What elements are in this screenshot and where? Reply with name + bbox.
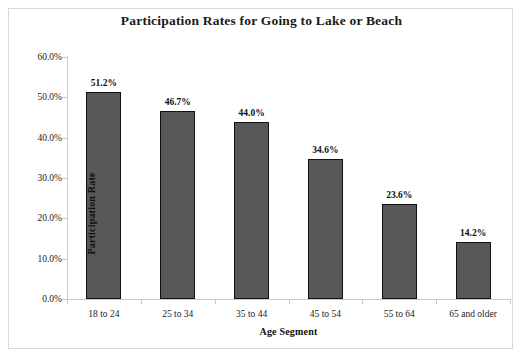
y-axis-tick-label: 30.0%	[8, 173, 62, 183]
plot-area: 51.2%46.7%44.0%34.6%23.6%14.2% Participa…	[67, 56, 510, 299]
x-axis-tick	[510, 299, 511, 304]
bar-value-label: 23.6%	[369, 190, 429, 201]
x-axis-category-label: 35 to 44	[212, 308, 292, 320]
x-axis-category-label: 18 to 24	[64, 308, 144, 320]
bar-value-label: 34.6%	[295, 145, 355, 156]
bar	[308, 159, 343, 299]
y-axis-tick-label: 50.0%	[8, 92, 62, 102]
bar	[160, 111, 195, 299]
y-axis-tick-label-text: 50.0%	[16, 92, 62, 102]
y-axis-tick-label: 40.0%	[8, 133, 62, 143]
bar-value-label: 44.0%	[222, 108, 282, 119]
y-axis-tick-label: 0.0%	[8, 294, 62, 304]
x-axis-category-label: 25 to 34	[138, 308, 218, 320]
x-axis-tick	[67, 299, 68, 304]
y-axis-tick-label-text: 40.0%	[16, 133, 62, 143]
bar-value-label: 46.7%	[148, 97, 208, 108]
bar	[456, 242, 491, 299]
x-axis-tick	[436, 299, 437, 304]
x-axis-tick	[289, 299, 290, 304]
y-axis-tick-label-text: 60.0%	[16, 52, 62, 62]
x-axis-tick	[362, 299, 363, 304]
x-axis-category-label: 45 to 54	[285, 308, 365, 320]
x-axis-tick	[215, 299, 216, 304]
y-axis-tick-label: 20.0%	[8, 213, 62, 223]
y-axis-tick-label-text: 0.0%	[16, 294, 62, 304]
bar	[382, 204, 417, 299]
chart-screenshot: Participation Rates for Going to Lake or…	[0, 0, 523, 359]
x-axis-category-label: 55 to 64	[359, 308, 439, 320]
y-axis-tick-label-text: 20.0%	[16, 213, 62, 223]
y-axis-tick-label-text: 30.0%	[16, 173, 62, 183]
y-axis-title: Participation Rate	[86, 144, 97, 284]
bar-value-label: 14.2%	[443, 228, 503, 239]
chart-title: Participation Rates for Going to Lake or…	[0, 13, 523, 29]
bar	[234, 122, 269, 299]
x-axis-title: Age Segment	[67, 326, 510, 337]
x-axis-category-label: 65 and older	[433, 308, 513, 320]
y-axis-tick-label-text: 10.0%	[16, 254, 62, 264]
y-axis-tick-label: 10.0%	[8, 254, 62, 264]
y-axis-tick-label: 60.0%	[8, 52, 62, 62]
bar-value-label: 51.2%	[74, 78, 134, 89]
x-axis-tick	[141, 299, 142, 304]
